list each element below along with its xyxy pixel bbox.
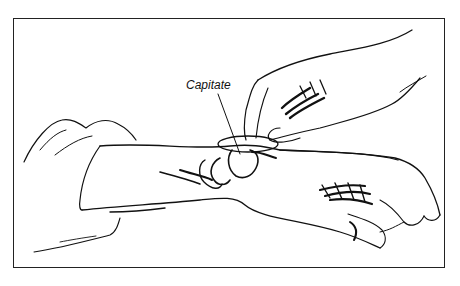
capitate-label: Capitate [186,78,231,92]
wrist-palpation-illustration [0,0,460,286]
